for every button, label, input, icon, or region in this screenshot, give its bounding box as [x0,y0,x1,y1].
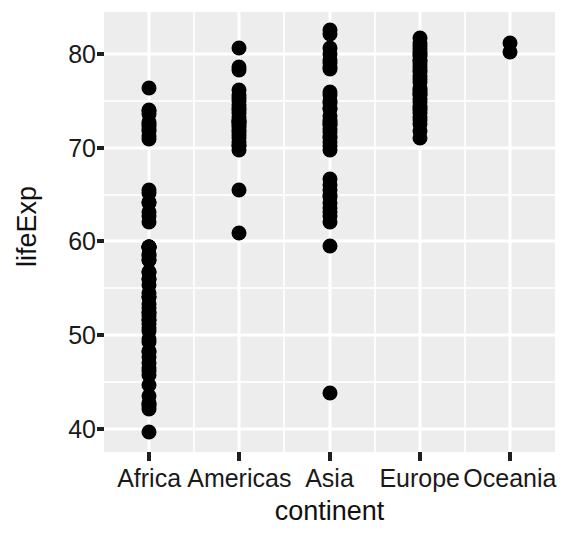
data-point [412,31,427,46]
y-axis-tick-label: 50 [44,320,96,349]
data-point [232,82,247,97]
data-point [142,80,157,95]
data-point [232,40,247,55]
data-point [322,22,337,37]
gridline-minor-vertical [374,12,376,452]
data-point [142,103,157,118]
chart-figure: lifeExp 4050607080 AfricaAmericasAsiaEur… [0,0,583,541]
x-axis-tick-mark [237,452,241,461]
data-point [322,84,337,99]
y-axis-title-text: lifeExp [13,185,44,266]
data-point [142,425,157,440]
y-axis-tick-label: 70 [44,133,96,162]
x-axis-tick-mark [147,452,151,461]
gridline-minor-vertical [283,12,285,452]
data-point [322,171,337,186]
gridline-minor-vertical [464,12,466,452]
data-point [232,182,247,197]
x-axis-tick-mark [418,452,422,461]
gridline-minor-vertical [193,12,195,452]
data-point [232,60,247,75]
data-point [142,182,157,197]
y-axis-tick-label: 80 [44,40,96,69]
x-axis-tick-label-oceania: Oceania [463,464,556,493]
x-axis-title: continent [104,496,555,527]
x-axis-tick-label-africa: Africa [117,464,181,493]
gridline-major-vertical [508,12,511,452]
y-axis-tick-label: 40 [44,414,96,443]
data-point [142,239,157,254]
data-point [232,225,247,240]
data-point [322,386,337,401]
plot-panel [104,12,555,452]
x-axis-tick-label-americas: Americas [187,464,291,493]
y-axis-tick-labels: 4050607080 [44,0,96,541]
y-axis-tick-label: 60 [44,227,96,256]
x-axis-tick-label-europe: Europe [379,464,460,493]
x-axis-tick-mark [508,452,512,461]
data-point [502,35,517,50]
x-axis-tick-label-asia: Asia [305,464,354,493]
data-point [322,239,337,254]
x-axis-tick-mark [328,452,332,461]
data-point [322,40,337,55]
